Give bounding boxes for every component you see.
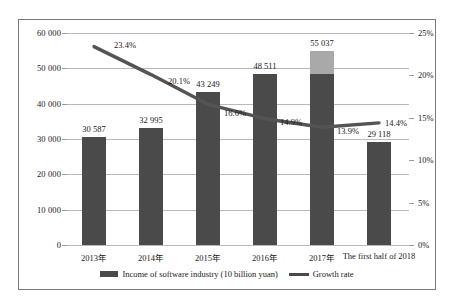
- xlabel-2015: 2015年: [195, 251, 221, 263]
- bar-2016[interactable]: 48 511 2016年: [253, 74, 277, 245]
- ytick-right-25: 25%: [418, 28, 434, 38]
- xlabel-first-half-2018: The first half of 2018: [343, 251, 416, 261]
- bar-value-label: 32 995: [139, 115, 162, 125]
- pct-label-2016: 14.9%: [280, 117, 302, 127]
- bar-segment-main: [253, 74, 277, 245]
- gridline-10000: [67, 210, 409, 211]
- bar-segment-main: [82, 137, 106, 245]
- gridline-20000: [67, 174, 409, 175]
- pct-label-2014: 20.1%: [168, 76, 190, 86]
- plot-area: 60 000 50 000 40 000 30 000 20 000 10 00…: [67, 33, 409, 245]
- xlabel-2013: 2013年: [81, 251, 107, 263]
- bar-segment-main: [310, 74, 334, 245]
- ytick-left-60000: 60 000: [37, 28, 61, 38]
- gridline-60000: [67, 33, 409, 34]
- pct-label-2013: 23.4%: [114, 40, 136, 50]
- ytick-right-10: 10%: [418, 155, 434, 165]
- ytick-left-20000: 20 000: [37, 169, 61, 179]
- bar-value-label: 43 249: [196, 79, 219, 89]
- xlabel-2014: 2014年: [138, 251, 164, 263]
- legend-item-growth-rate[interactable]: Growth rate: [289, 269, 354, 279]
- ytick-right-5: 5%: [418, 198, 429, 208]
- ytick-right-20: 20%: [418, 70, 434, 80]
- bar-segment-main: [139, 128, 163, 245]
- bar-segment-extra: [310, 51, 334, 75]
- legend-item-income[interactable]: Income of software industry (10 billion …: [100, 269, 277, 279]
- tickmark-left-5: [62, 68, 67, 69]
- tickmark-right-0: [409, 245, 414, 246]
- bar-2015[interactable]: 43 249 2015年: [196, 92, 220, 245]
- gridline-40000: [67, 104, 409, 105]
- bar-value-label: 48 511: [253, 61, 276, 71]
- ytick-left-10000: 10 000: [37, 205, 61, 215]
- bar-2014[interactable]: 32 995 2014年: [139, 128, 163, 245]
- tickmark-right-1: [409, 203, 414, 204]
- tickmark-left-3: [62, 139, 67, 140]
- bar-2013[interactable]: 30 587 2013年: [82, 137, 106, 245]
- ytick-right-15: 15%: [418, 113, 434, 123]
- gridline-30000: [67, 139, 409, 140]
- tickmark-right-3: [409, 118, 414, 119]
- bar-value-label: 30 587: [82, 124, 105, 134]
- line-swatch-icon: [289, 273, 309, 276]
- tickmark-left-1: [62, 210, 67, 211]
- xlabel-2017: 2017年: [309, 251, 335, 263]
- ytick-left-40000: 40 000: [37, 99, 61, 109]
- tickmark-left-2: [62, 174, 67, 175]
- gridline-50000: [67, 68, 409, 69]
- tickmark-left-4: [62, 104, 67, 105]
- pct-label-first-half-2018: 14.4%: [385, 118, 407, 128]
- xlabel-2016: 2016年: [252, 251, 278, 263]
- axis-baseline: [67, 245, 409, 246]
- bar-swatch-icon: [100, 271, 118, 277]
- tickmark-right-5: [409, 33, 414, 34]
- ytick-left-30000: 30 000: [37, 134, 61, 144]
- legend: Income of software industry (10 billion …: [19, 269, 435, 279]
- bar-value-label: 55 037: [310, 38, 333, 48]
- tickmark-right-2: [409, 160, 414, 161]
- tickmark-left-0: [62, 245, 67, 246]
- bar-segment-main: [367, 142, 391, 245]
- ytick-right-0: 0%: [418, 240, 429, 250]
- chart-frame: 60 000 50 000 40 000 30 000 20 000 10 00…: [18, 19, 436, 290]
- bar-first-half-2018[interactable]: 29 118 The first half of 2018: [367, 142, 391, 245]
- pct-label-2015: 16.6%: [224, 108, 246, 118]
- ytick-left-50000: 50 000: [37, 63, 61, 73]
- legend-label-income: Income of software industry (10 billion …: [122, 269, 277, 279]
- bar-segment-main: [196, 92, 220, 245]
- legend-label-growth-rate: Growth rate: [313, 269, 354, 279]
- pct-label-2017: 13.9%: [337, 126, 359, 136]
- bar-2017[interactable]: 55 037 2017年: [310, 51, 334, 246]
- tickmark-right-4: [409, 75, 414, 76]
- ytick-left-0: 0: [57, 240, 61, 250]
- bar-value-label: 29 118: [367, 129, 390, 139]
- tickmark-left-6: [62, 33, 67, 34]
